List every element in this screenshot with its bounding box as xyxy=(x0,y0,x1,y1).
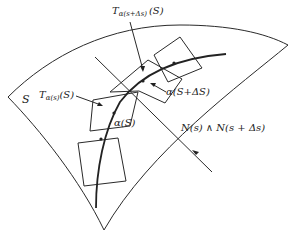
label-point-alpha-s-ds: α(S+ΔS) xyxy=(166,86,210,97)
leader-tangent-plane-s xyxy=(76,96,101,105)
surface-tangent-planes-diagram: S Tα(s)(S) Tα(s+Δs)(S) α(S) α(S+ΔS) N(s)… xyxy=(0,0,296,241)
point-alpha-s-ds xyxy=(141,79,144,82)
tangent-plane-s-lower xyxy=(78,138,126,186)
point-alpha-s-lower xyxy=(99,137,102,140)
label-point-alpha-s: α(S) xyxy=(114,117,136,128)
point-alpha-s-ds-upper xyxy=(172,61,175,64)
point-alpha-s xyxy=(112,111,115,114)
label-tangent-plane-s-ds: Tα(s+Δs)(S) xyxy=(112,5,164,18)
leader-tangent-plane-s-ds-head xyxy=(140,66,145,72)
tangent-plane-s-ds-upper xyxy=(154,37,202,82)
label-surface: S xyxy=(22,93,30,106)
label-tangent-plane-s: Tα(s)(S) xyxy=(39,89,74,102)
intersection-arrow-head xyxy=(192,150,199,155)
label-intersection-line: N(s) ∧ N(s + Δs) xyxy=(180,122,265,133)
leader-point-s-ds-head xyxy=(150,83,156,87)
